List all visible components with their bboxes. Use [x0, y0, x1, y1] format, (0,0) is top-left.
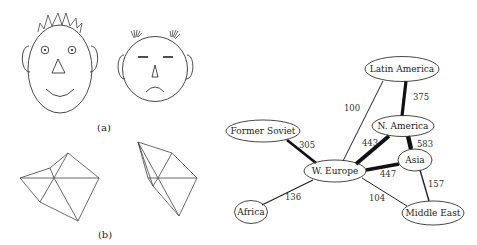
edge-weight-label: 136: [285, 192, 301, 202]
node-w-europe: W. Europe: [304, 160, 366, 182]
figure-canvas: (a) (b) Latin America: [0, 0, 477, 245]
edge-weight-label: 305: [299, 140, 315, 150]
edge-weight-label: 375: [413, 92, 429, 102]
round-head: [123, 37, 188, 102]
graph-edges: [262, 81, 429, 206]
node-label: Middle East: [406, 208, 461, 218]
node-label: Asia: [404, 155, 425, 165]
oval-head: [28, 25, 92, 113]
panel-label-a: (a): [97, 122, 111, 133]
mesh-right: [138, 142, 197, 216]
frown-mouth: [146, 87, 164, 92]
edge-weight-label: 583: [417, 139, 433, 149]
node-n-america: N. America: [372, 116, 434, 137]
right-pupil: [71, 49, 73, 51]
node-label: W. Europe: [312, 166, 359, 176]
edge-namerica-asia: [408, 136, 411, 149]
node-former-soviet: Former Soviet: [226, 120, 300, 142]
edge-weight-label: 104: [369, 193, 385, 203]
node-label: Latin America: [370, 64, 435, 74]
node-label: Former Soviet: [231, 126, 296, 136]
edge-weight-labels: 100 375 305 443 583 447 157 104 136: [285, 92, 444, 203]
panel-label-b: (b): [98, 229, 112, 240]
node-label: Africa: [236, 207, 265, 217]
hair-tuft-right: [170, 30, 180, 39]
node-label: N. America: [378, 121, 430, 131]
edge-weight-label: 100: [344, 103, 360, 113]
node-latin-america: Latin America: [365, 57, 439, 82]
edge-weight-label: 157: [428, 179, 444, 189]
edge-weight-label: 443: [362, 138, 378, 148]
left-pupil: [44, 49, 46, 51]
triangle-nose: [52, 59, 65, 73]
sad-face: [118, 30, 193, 102]
smile-mouth: [46, 89, 74, 97]
edge-weight-label: 447: [380, 169, 396, 179]
node-middle-east: Middle East: [402, 201, 464, 225]
node-asia: Asia: [398, 149, 432, 171]
edge-latinamerica-namerica: [402, 81, 406, 116]
happy-face: [22, 13, 97, 113]
hair-tuft-left: [131, 30, 142, 38]
node-africa: Africa: [235, 201, 268, 224]
small-triangle-nose: [152, 65, 158, 77]
mesh-left: [20, 153, 99, 221]
